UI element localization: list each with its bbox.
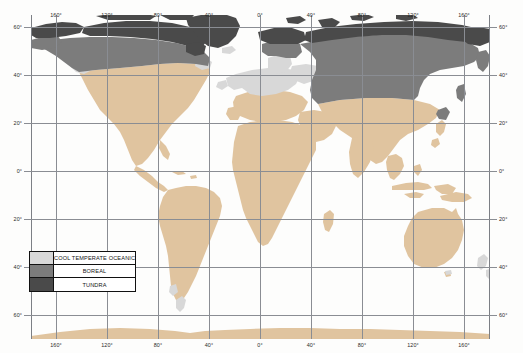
gridline-lon-80e [362,15,363,339]
world-climate-zone-map: 160° 120° 80° 40° 0° 40° 80° 120° 160° 1… [0,0,523,353]
gridline-lat-20s [24,219,497,220]
gridline-lat-60s [24,315,497,316]
axis-label-top-6: 80° [358,12,366,18]
axis-label-bottom-7: 120° [407,342,419,348]
axis-label-bottom-6: 80° [358,342,366,348]
gridline-lat-60n [24,27,497,28]
gridline-lon-40e [311,15,312,339]
axis-label-right-4: 20° [499,216,507,222]
legend-label-cool-temperate-oceanic: COOL TEMPERATE OCEANIC [54,252,135,264]
axis-label-right-3: 0° [499,168,504,174]
axis-label-top-4: 0° [257,12,262,18]
axis-label-bottom-8: 160° [458,342,470,348]
axis-label-bottom-2: 80° [154,342,162,348]
gridline-lat-20n [24,123,497,124]
legend-swatch-tundra [30,278,54,291]
axis-label-bottom-1: 120° [101,342,113,348]
gridline-lon-0 [260,15,261,339]
axis-label-top-3: 40° [205,12,213,18]
axis-label-top-2: 80° [154,12,162,18]
gridline-lon-180e [489,15,490,339]
axis-label-left-1: 40° [14,72,22,78]
axis-label-bottom-4: 0° [257,342,262,348]
axis-label-left-3: 0° [17,168,22,174]
axis-label-bottom-3: 40° [205,342,213,348]
axis-label-right-6: 60° [499,312,507,318]
axis-label-right-1: 40° [499,72,507,78]
axis-label-left-5: 40° [14,264,22,270]
axis-label-left-4: 20° [14,216,22,222]
legend-swatch-cool-temperate-oceanic [30,252,54,264]
axis-label-bottom-5: 40° [307,342,315,348]
legend-swatch-boreal [30,265,54,277]
axis-label-right-2: 20° [499,120,507,126]
gridline-lon-80w [158,15,159,339]
legend-row-boreal: BOREAL [30,265,135,278]
legend-row-cool-temperate-oceanic: COOL TEMPERATE OCEANIC [30,252,135,265]
map-legend: COOL TEMPERATE OCEANIC BOREAL TUNDRA [29,251,136,292]
axis-label-left-6: 60° [14,312,22,318]
axis-label-right-5: 40° [499,264,507,270]
axis-label-left-0: 60° [14,24,22,30]
axis-label-top-5: 40° [307,12,315,18]
legend-row-tundra: TUNDRA [30,278,135,291]
axis-label-right-0: 60° [499,24,507,30]
axis-label-left-2: 20° [14,120,22,126]
axis-label-bottom-0: 160° [50,342,62,348]
axis-label-top-7: 120° [407,12,419,18]
gridline-lat-40n [24,75,497,76]
axis-label-top-1: 120° [101,12,113,18]
axis-label-top-8: 160° [458,12,470,18]
gridline-lon-160e [464,15,465,339]
gridline-lat-0 [24,171,497,172]
gridline-lon-40w [209,15,210,339]
axis-label-top-0: 160° [50,12,62,18]
legend-label-tundra: TUNDRA [54,278,135,291]
gridline-lon-120e [413,15,414,339]
legend-label-boreal: BOREAL [54,265,135,277]
